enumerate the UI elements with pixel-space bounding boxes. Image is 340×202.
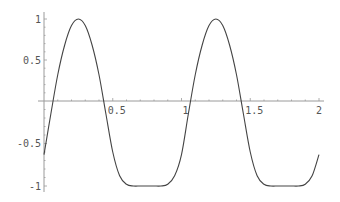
- y-tick-label: 0.5: [23, 55, 41, 66]
- tick-labels: 0.511.52-1-0.50.51: [17, 14, 322, 192]
- axes: [38, 12, 324, 192]
- y-tick-label: -0.5: [17, 138, 41, 149]
- x-tick-label: 2: [316, 105, 322, 116]
- x-tick-label: 1: [182, 105, 188, 116]
- y-tick-label: -1: [29, 181, 41, 192]
- x-tick-label: 1.5: [245, 105, 263, 116]
- axis-ticks: [44, 19, 319, 186]
- x-tick-label: 0.5: [108, 105, 126, 116]
- y-tick-label: 1: [35, 14, 41, 25]
- line-plot: 0.511.52-1-0.50.51: [0, 0, 340, 202]
- data-curve: [44, 19, 319, 186]
